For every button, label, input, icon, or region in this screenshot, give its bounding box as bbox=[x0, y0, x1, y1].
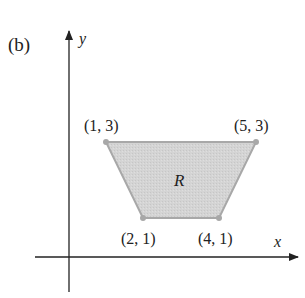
vertex-label-5-3: (5, 3) bbox=[234, 117, 269, 135]
vertex-label-4-1: (4, 1) bbox=[198, 230, 233, 248]
vertex-label-2-1: (2, 1) bbox=[121, 230, 156, 248]
vertex-dot bbox=[103, 139, 109, 145]
x-axis-label: x bbox=[273, 233, 281, 250]
panel-label: (b) bbox=[8, 34, 30, 56]
vertex-dot bbox=[140, 215, 146, 221]
region-label: R bbox=[173, 171, 185, 190]
vertex-label-1-3: (1, 3) bbox=[84, 117, 119, 135]
vertex-dot bbox=[253, 139, 259, 145]
y-axis-label: y bbox=[77, 30, 87, 48]
vertex-dot bbox=[216, 215, 222, 221]
coordinate-diagram: (b) y x R (1, 3) (5, 3) (4, 1) (2, 1) bbox=[0, 0, 305, 298]
